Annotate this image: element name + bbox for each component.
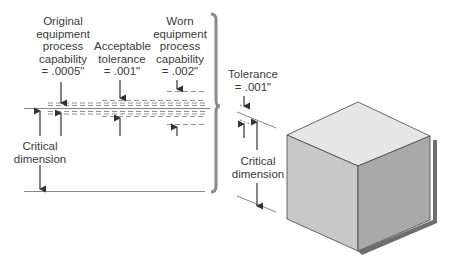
cube-dimension-arrows [244, 96, 257, 206]
label-worn-capability: Worn equipment process capability = .002… [152, 15, 208, 78]
label-critical-dimension-left: Critical dimension [12, 140, 68, 165]
curly-brace [211, 14, 220, 192]
cube [287, 102, 437, 255]
label-critical-dimension-right: Critical dimension [230, 155, 286, 180]
label-tolerance: Tolerance = .001" [225, 68, 281, 93]
label-acceptable-tolerance: Acceptable tolerance = .001" [94, 40, 150, 78]
dimension-arrows [40, 80, 177, 189]
label-original-capability: Original equipment process capability = … [35, 15, 91, 78]
